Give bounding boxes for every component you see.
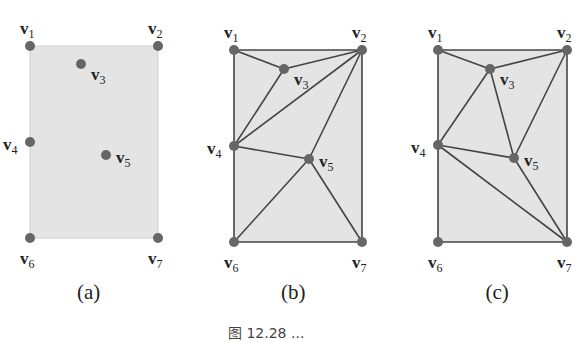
vertex-v6: [25, 233, 35, 243]
vertex-label-v6: v6: [224, 254, 239, 274]
vertex-v6: [229, 237, 239, 247]
vertex-label-v6: v6: [428, 254, 443, 274]
vertex-v7: [153, 233, 163, 243]
vertex-label-v1: v1: [20, 20, 35, 40]
vertex-label-v4: v4: [3, 136, 18, 156]
vertex-v6: [433, 237, 443, 247]
vertex-label-v3: v3: [500, 71, 515, 91]
vertex-label-v3: v3: [91, 66, 106, 86]
vertex-label-v4: v4: [207, 140, 222, 160]
vertex-v2: [153, 41, 163, 51]
vertex-label-v5: v5: [319, 153, 334, 173]
vertex-label-v5: v5: [524, 152, 539, 172]
vertex-label-v2: v2: [352, 24, 367, 44]
vertex-label-v1: v1: [428, 24, 443, 44]
vertex-v7: [357, 237, 367, 247]
vertex-label-v7: v7: [352, 254, 367, 274]
vertex-label-v1: v1: [224, 24, 239, 44]
vertex-label-v6: v6: [20, 250, 35, 270]
panel-caption-a: (a): [77, 280, 100, 305]
vertex-label-v7: v7: [148, 250, 163, 270]
vertex-label-v2: v2: [148, 20, 163, 40]
vertex-v5: [304, 154, 314, 164]
vertex-v2: [562, 45, 572, 55]
vertex-label-v4: v4: [411, 139, 426, 159]
figure-caption: 图 12.28 ...: [228, 322, 304, 342]
vertex-v4: [25, 137, 35, 147]
vertex-v1: [229, 45, 239, 55]
vertex-v7: [562, 237, 572, 247]
vertex-v4: [229, 141, 239, 151]
vertex-v3: [485, 64, 495, 74]
vertex-v3: [279, 64, 289, 74]
vertex-label-v7: v7: [557, 254, 572, 274]
vertex-v3: [76, 59, 86, 69]
panel-caption-c: (c): [486, 280, 509, 305]
vertex-v5: [509, 153, 519, 163]
vertex-label-v2: v2: [557, 24, 572, 44]
vertex-v4: [433, 140, 443, 150]
vertex-v2: [357, 45, 367, 55]
vertex-v1: [433, 45, 443, 55]
vertex-v1: [25, 41, 35, 51]
vertex-label-v3: v3: [294, 71, 309, 91]
vertex-v5: [101, 150, 111, 160]
vertex-label-v5: v5: [116, 149, 131, 169]
panel-caption-b: (b): [281, 280, 306, 305]
